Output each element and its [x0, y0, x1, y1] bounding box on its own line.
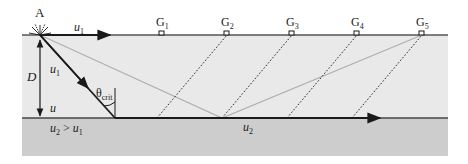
lower-layer [22, 118, 448, 156]
geophone-label-5: G5 [416, 15, 429, 31]
layer-velocity-label: u [50, 101, 56, 115]
source-burst-icon [29, 24, 51, 35]
depth-label: D [26, 69, 37, 84]
geophone-label-2: G2 [221, 15, 234, 31]
source-label: A [35, 5, 45, 20]
geophone-label-4: G4 [351, 15, 364, 31]
geophone-label-1: G1 [156, 15, 169, 31]
seismic-refraction-diagram: A G1 G2 G3 G4 G5 u1 u1 D u θcrit u2 > u1… [0, 0, 468, 164]
surface-velocity-label: u1 [74, 20, 84, 36]
upper-layer [22, 35, 448, 118]
geophone-label-3: G3 [286, 15, 299, 31]
velocity-relation-label: u2 > u1 [50, 121, 83, 137]
